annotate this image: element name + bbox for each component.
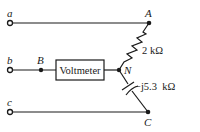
label-N: N	[123, 64, 132, 76]
label-A: A	[144, 7, 152, 19]
node-A	[147, 21, 152, 26]
label-b: b	[7, 54, 13, 66]
label-c: c	[7, 96, 12, 108]
label-B: B	[37, 54, 44, 66]
voltmeter-label: Voltmeter	[59, 65, 101, 76]
node-N	[117, 68, 121, 72]
circuit-svg: Voltmeter a b c A B N C 2 kΩ −j5.3 kΩ	[0, 0, 200, 132]
terminal-b	[8, 68, 13, 73]
resistor-value: 2 kΩ	[142, 45, 163, 56]
label-a: a	[7, 7, 13, 19]
node-C	[146, 110, 151, 115]
capacitor-value: −j5.3 kΩ	[135, 81, 175, 92]
node-B	[39, 68, 43, 72]
terminal-c	[8, 110, 13, 115]
terminal-a	[8, 21, 13, 26]
circuit-diagram: Voltmeter a b c A B N C 2 kΩ −j5.3 kΩ	[0, 0, 200, 132]
label-C: C	[144, 116, 152, 128]
